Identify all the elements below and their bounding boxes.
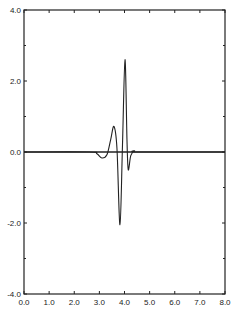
- x-tick-label: 2.0: [69, 298, 81, 307]
- x-tick-label: 6.0: [169, 298, 181, 307]
- line-chart: 0.01.02.03.04.05.06.07.08.0-4.0-2.00.02.…: [0, 0, 234, 317]
- y-tick-label: -2.0: [7, 219, 21, 228]
- y-tick-label: 4.0: [10, 6, 22, 15]
- x-tick-label: 5.0: [144, 298, 156, 307]
- series-line: [24, 60, 225, 225]
- axis-tick-labels: 0.01.02.03.04.05.06.07.08.0-4.0-2.00.02.…: [7, 6, 231, 307]
- x-tick-label: 3.0: [94, 298, 106, 307]
- x-tick-label: 8.0: [219, 298, 231, 307]
- x-tick-label: 7.0: [194, 298, 206, 307]
- y-tick-label: -4.0: [7, 290, 21, 299]
- y-tick-label: 2.0: [10, 77, 22, 86]
- x-tick-label: 1.0: [44, 298, 56, 307]
- data-series: [24, 60, 225, 225]
- x-tick-label: 0.0: [18, 298, 30, 307]
- y-tick-label: 0.0: [10, 148, 22, 157]
- x-tick-label: 4.0: [119, 298, 131, 307]
